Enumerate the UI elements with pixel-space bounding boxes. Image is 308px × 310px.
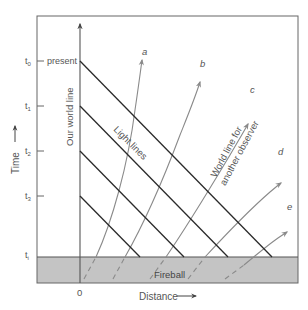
origin-label: 0 xyxy=(77,287,82,298)
light-lines xyxy=(80,61,272,257)
light-lines-label: Light lines xyxy=(112,124,150,162)
light-line-t0 xyxy=(80,61,272,257)
light-line-t1 xyxy=(80,106,228,257)
world-line-label-a: a xyxy=(142,46,147,57)
time-ticks xyxy=(37,61,44,196)
y-axis-label: Time xyxy=(10,152,21,174)
tick-label-t1: t1 xyxy=(25,101,32,112)
spacetime-diagram: t0 t1 t2 t3 ti present Time Our world li… xyxy=(0,0,308,310)
present-label: present xyxy=(47,56,78,66)
world-line-b xyxy=(125,82,200,257)
fireball-label: Fireball xyxy=(154,269,185,280)
tick-label-t0: t0 xyxy=(25,56,32,67)
world-line-label-c: c xyxy=(250,84,255,95)
diagram-canvas: t0 t1 t2 t3 ti present Time Our world li… xyxy=(0,0,308,310)
our-world-line-label: Our world line xyxy=(64,87,75,146)
world-line-label-e: e xyxy=(287,201,292,212)
world-line-label-d: d xyxy=(278,146,284,157)
tick-label-t2: t2 xyxy=(25,146,32,157)
y-axis-label-group: Time xyxy=(10,152,21,174)
world-line-a xyxy=(96,60,142,257)
light-line-t3 xyxy=(80,196,140,257)
light-line-t2 xyxy=(80,151,184,257)
tick-label-ti: ti xyxy=(25,250,29,261)
tick-label-t3: t3 xyxy=(25,191,32,202)
world-line-label-b: b xyxy=(200,58,205,69)
x-axis-label: Distance xyxy=(139,291,178,302)
